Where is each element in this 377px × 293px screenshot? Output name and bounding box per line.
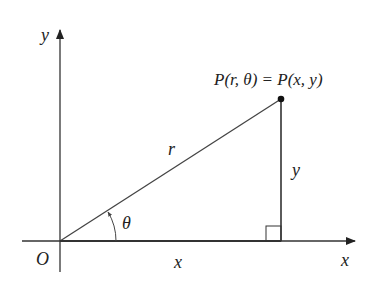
horizontal-leg-label: x	[173, 252, 182, 272]
hypotenuse-label: r	[168, 139, 176, 159]
right-angle-marker	[266, 226, 281, 241]
polar-coordinates-diagram: y x O P(r, θ) = P(x, y) r y x θ	[0, 0, 377, 293]
vertical-leg-label: y	[290, 160, 300, 180]
y-axis-label: y	[39, 25, 49, 45]
angle-arc	[108, 212, 116, 241]
origin-label: O	[36, 249, 49, 269]
point-p	[278, 96, 285, 103]
point-label: P(r, θ) = P(x, y)	[213, 70, 323, 89]
angle-label: θ	[122, 213, 131, 233]
hypotenuse-r	[60, 99, 281, 241]
x-axis-label: x	[340, 250, 349, 270]
